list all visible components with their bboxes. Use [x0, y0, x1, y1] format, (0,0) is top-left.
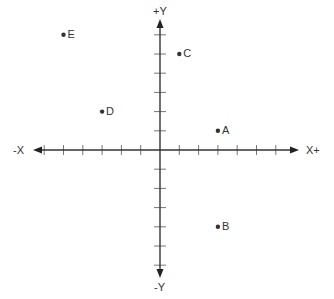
coordinate-plane: [0, 0, 334, 299]
y-axis-up-arrow-icon: [157, 19, 164, 28]
y-axis-down-arrow-icon: [157, 269, 164, 278]
point-a-marker: [216, 129, 220, 133]
point-c-marker: [177, 52, 181, 56]
point-a-label: A: [222, 125, 229, 136]
y-negative-label: -Y: [154, 282, 165, 293]
data-points: [61, 33, 220, 229]
point-c-label: C: [183, 48, 191, 59]
point-b-label: B: [222, 221, 229, 232]
x-axis-right-arrow-icon: [290, 147, 299, 154]
x-negative-label: -X: [13, 145, 24, 156]
point-b-marker: [216, 225, 220, 229]
x-positive-label: X+: [306, 145, 320, 156]
point-e-marker: [61, 33, 65, 37]
point-e-label: E: [68, 29, 75, 40]
point-d-marker: [100, 109, 104, 113]
point-d-label: D: [106, 106, 114, 117]
y-positive-label: +Y: [153, 6, 167, 17]
x-axis-left-arrow-icon: [33, 147, 42, 154]
